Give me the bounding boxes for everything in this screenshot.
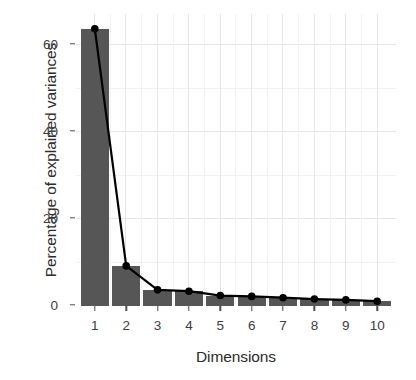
x-tick-mark <box>157 306 158 311</box>
x-tick-label: 3 <box>141 318 175 333</box>
x-tick-mark <box>376 306 377 311</box>
x-tick-mark <box>125 306 126 311</box>
y-tick-label: 0 <box>24 298 58 313</box>
data-point <box>311 295 319 303</box>
x-axis-title: Dimensions <box>80 348 392 366</box>
y-tick-mark <box>70 43 75 44</box>
x-tick-mark <box>282 306 283 311</box>
x-tick-mark <box>345 306 346 311</box>
line-series <box>76 14 396 306</box>
data-point <box>154 286 162 294</box>
x-tick-label: 4 <box>172 318 206 333</box>
data-point <box>185 287 193 295</box>
data-point <box>122 262 130 270</box>
plot-panel <box>76 14 396 306</box>
data-point <box>217 292 225 300</box>
x-tick-label: 7 <box>266 318 300 333</box>
x-tick-label: 10 <box>360 318 394 333</box>
scree-plot-figure: Percentage of explained variances 60 40 … <box>0 0 416 380</box>
y-tick-label: 60 <box>24 37 58 52</box>
x-tick-label: 6 <box>235 318 269 333</box>
x-tick-mark <box>94 306 95 311</box>
data-point <box>279 294 287 302</box>
data-point <box>248 293 256 301</box>
x-tick-mark <box>251 306 252 311</box>
y-tick-label: 40 <box>24 124 58 139</box>
y-axis-title: Percentage of explained variances <box>34 10 68 310</box>
x-tick-label: 9 <box>329 318 363 333</box>
y-tick-mark <box>70 304 75 305</box>
x-tick-label: 1 <box>78 318 112 333</box>
trend-line <box>95 29 377 301</box>
data-point <box>342 296 350 304</box>
y-tick-mark <box>70 217 75 218</box>
x-tick-label: 8 <box>297 318 331 333</box>
x-tick-mark <box>220 306 221 311</box>
y-tick-label: 20 <box>24 211 58 226</box>
x-tick-mark <box>314 306 315 311</box>
data-point <box>373 297 381 305</box>
x-tick-mark <box>188 306 189 311</box>
x-tick-label: 5 <box>203 318 237 333</box>
data-point <box>91 25 99 33</box>
y-tick-mark <box>70 130 75 131</box>
x-tick-label: 2 <box>109 318 143 333</box>
